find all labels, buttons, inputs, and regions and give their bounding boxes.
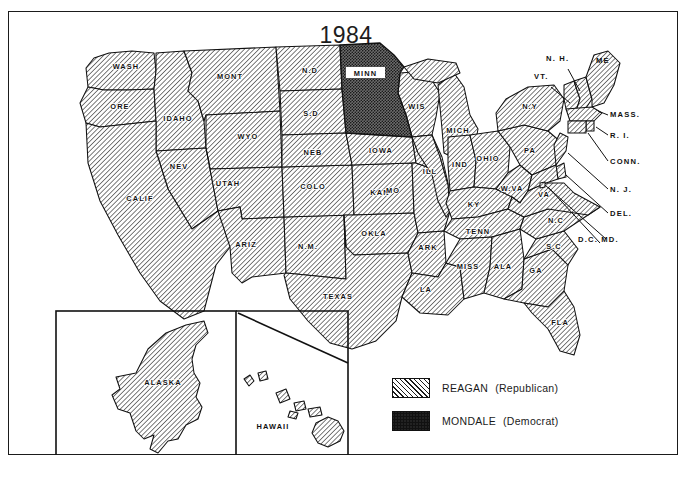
label-ALASKA: ALASKA [144,378,181,387]
hawaii-island-4 [294,401,306,411]
hawaii-island-5 [288,411,298,419]
label-DCMD: D.C. MD. [578,235,619,244]
label-MINN: MINN [354,69,377,78]
label-ALA: ALA [494,262,513,271]
label-GA: GA [529,266,542,275]
label-WVA: W.VA [501,184,524,193]
state-CONN [568,121,586,133]
label-IOWA: IOWA [369,146,393,155]
legend-row-mondale: MONDALE(Democrat) [392,411,622,431]
label-OKLA: OKLA [361,229,386,238]
label-HAWAII: HAWAII [257,422,290,431]
label-CALIF: CALIF [126,194,153,203]
legend-name-mondale: MONDALE [442,415,496,427]
legend-name-reagan: REAGAN [442,382,488,394]
label-ORE: ORE [110,102,129,111]
hawaii-island-big [312,417,344,447]
label-COLO: COLO [300,182,326,191]
label-OHIO: OHIO [476,154,499,163]
legend-label-reagan: REAGAN(Republican) [442,382,558,394]
label-ND: N.D [302,66,318,75]
label-WYO: WYO [238,132,259,141]
label-NEB: NEB [304,148,323,157]
legend-row-reagan: REAGAN(Republican) [392,378,622,398]
hawaii-island-2 [258,371,268,381]
label-ARIZ: ARIZ [235,240,257,249]
label-MASS: MASS. [610,110,640,119]
state-RI [586,121,594,131]
label-NM: N.M. [298,242,318,251]
election-map-page: 1984 [0,0,692,481]
label-FLA: FLA [551,318,569,327]
label-ILL: ILL [423,167,437,176]
label-IDAHO: IDAHO [163,114,192,123]
label-SD: S.D [303,109,319,118]
label-WIS: WIS [408,102,425,111]
label-NC: N.C [548,216,564,225]
label-LA: LA [420,285,432,294]
label-MO: MO [386,186,400,195]
map-legend: REAGAN(Republican) MONDALE(Democrat) [392,378,622,444]
state-DC [540,182,545,188]
label-NH: N. H. [546,54,569,63]
label-MICH: MICH [446,126,469,135]
label-UTAH: UTAH [216,179,240,188]
label-SC: S.C [546,242,562,251]
label-ARK: ARK [418,243,437,252]
hawaii-island-3 [276,389,290,403]
label-TENN: TENN [466,227,491,236]
legend-party-reagan: (Republican) [495,382,558,394]
state-ALASKA [112,321,208,453]
label-DEL: DEL. [610,209,632,218]
label-NJ: N. J. [610,185,632,194]
label-NY: N.Y [522,102,538,111]
state-COLO [282,165,354,217]
label-ME: ME [596,56,610,65]
legend-party-mondale: (Democrat) [503,415,559,427]
label-MONT: MONT [217,72,243,81]
label-IND: IND [452,160,468,169]
label-KY: KY [468,200,480,209]
label-RI: R. I. [610,131,630,140]
label-WASH: WASH [113,62,140,71]
label-MISS: MISS [457,262,479,271]
label-TEXAS: TEXAS [323,292,353,301]
legend-label-mondale: MONDALE(Democrat) [442,415,559,427]
legend-swatch-mondale [392,411,430,431]
label-NEV: NEV [170,162,189,171]
label-VT: VT. [534,72,549,81]
label-VA: VA [538,190,550,199]
hawaii-island-6 [308,407,322,417]
legend-swatch-reagan [392,378,430,398]
label-PA: PA [524,146,536,155]
hawaii-island-1 [244,375,254,386]
state-MASS [566,107,602,121]
label-CONN: CONN. [610,157,640,166]
